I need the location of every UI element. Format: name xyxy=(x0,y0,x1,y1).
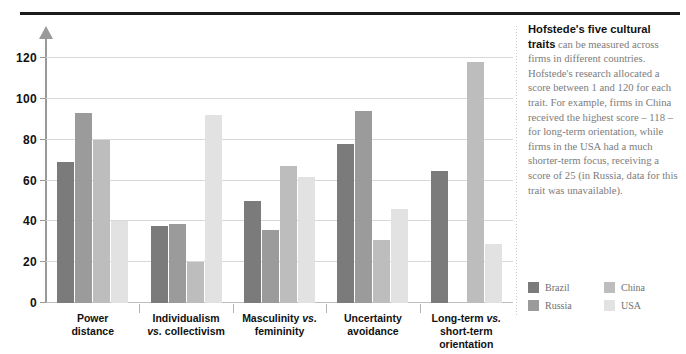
bar-usa xyxy=(391,209,408,303)
panel-divider xyxy=(516,26,517,316)
legend-label: Russia xyxy=(545,300,572,311)
bar-groups xyxy=(46,38,513,303)
bar-russia xyxy=(75,113,92,303)
legend-swatch-icon xyxy=(528,300,539,311)
x-category-label: Masculinity vs.femininity xyxy=(233,312,326,338)
bar-china xyxy=(280,166,297,303)
legend-swatch-icon xyxy=(604,282,615,293)
x-category-label: Long-term vs.short-termorientation xyxy=(420,312,513,351)
y-axis-label-40: 40 xyxy=(23,214,37,228)
top-rule xyxy=(20,12,680,15)
description-body: can be measured across firms in differen… xyxy=(528,38,678,196)
bar-group xyxy=(139,38,232,303)
x-category-label: Powerdistance xyxy=(46,312,139,338)
bar-russia xyxy=(262,230,279,303)
chart-panel: 020406080100120 PowerdistanceIndividuali… xyxy=(0,20,516,350)
bar-usa xyxy=(298,177,315,303)
legend-label: China xyxy=(621,282,645,293)
plot-area: 020406080100120 xyxy=(46,38,513,303)
legend-item-russia[interactable]: Russia xyxy=(528,300,604,311)
legend-swatch-icon xyxy=(604,300,615,311)
chart-description: Hofstede's five cultural traits can be m… xyxy=(528,22,680,197)
bar-group xyxy=(326,38,419,303)
legend-item-usa[interactable]: USA xyxy=(604,300,680,311)
bar-brazil xyxy=(337,144,354,303)
legend-label: Brazil xyxy=(545,282,569,293)
y-axis-label-120: 120 xyxy=(16,51,37,65)
bar-usa xyxy=(205,115,222,303)
y-axis-label-20: 20 xyxy=(23,255,37,269)
bar-brazil xyxy=(57,162,74,303)
x-category-label: Uncertaintyavoidance xyxy=(326,312,419,338)
bar-brazil xyxy=(151,226,168,303)
bar-russia xyxy=(169,224,186,304)
bar-china xyxy=(93,140,110,303)
text-panel: Hofstede's five cultural traits can be m… xyxy=(528,22,680,197)
bar-group xyxy=(233,38,326,303)
bar-brazil xyxy=(431,171,448,304)
bar-group xyxy=(46,38,139,303)
y-axis-label-0: 0 xyxy=(30,296,37,310)
bar-russia xyxy=(355,111,372,303)
bar-usa xyxy=(485,244,502,303)
bar-group xyxy=(420,38,513,303)
y-axis-label-100: 100 xyxy=(16,92,37,106)
bar-china xyxy=(373,240,390,303)
bar-china xyxy=(467,62,484,303)
bar-usa xyxy=(111,221,128,303)
chart-legend: BrazilChinaRussiaUSA xyxy=(528,282,680,318)
legend-label: USA xyxy=(621,300,641,311)
legend-item-brazil[interactable]: Brazil xyxy=(528,282,604,293)
x-category-label: Individualismvs. collectivism xyxy=(139,312,232,338)
y-axis-label-60: 60 xyxy=(23,174,37,188)
legend-item-china[interactable]: China xyxy=(604,282,680,293)
y-axis-label-80: 80 xyxy=(23,133,37,147)
bar-brazil xyxy=(244,201,261,303)
legend-swatch-icon xyxy=(528,282,539,293)
bar-china xyxy=(187,262,204,303)
x-axis-category-labels: PowerdistanceIndividualismvs. collectivi… xyxy=(46,312,513,354)
